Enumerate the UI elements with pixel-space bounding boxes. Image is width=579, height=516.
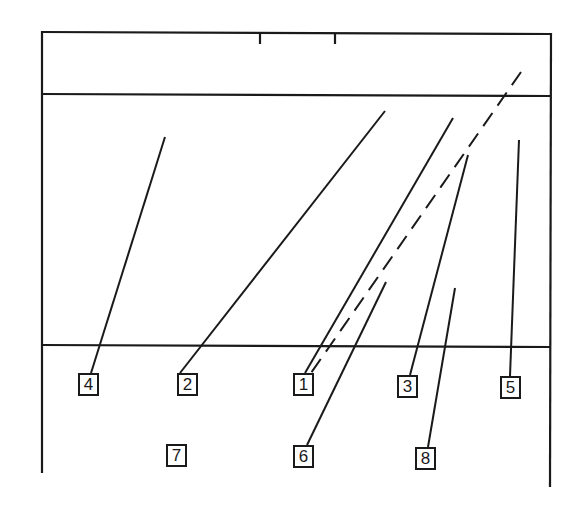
leader-line-8 xyxy=(428,288,455,447)
leader-line-4 xyxy=(91,137,165,373)
callout-label-8: 8 xyxy=(415,447,436,470)
leader-line-1 xyxy=(305,118,453,373)
leader-line-5 xyxy=(510,140,519,376)
lower-divider-line xyxy=(42,345,551,347)
callout-label-3: 3 xyxy=(397,375,418,398)
leader-line-6 xyxy=(307,282,386,445)
callout-label-4: 4 xyxy=(78,373,99,396)
upper-divider-line xyxy=(42,94,551,96)
callout-label-5: 5 xyxy=(500,376,521,399)
cross-section-diagram xyxy=(0,0,579,516)
leader-line-2 xyxy=(180,111,385,373)
leader-line-3 xyxy=(410,155,468,375)
callout-label-6: 6 xyxy=(293,445,314,468)
callout-label-7: 7 xyxy=(166,444,187,467)
callout-label-1: 1 xyxy=(293,373,314,396)
leader-line-1-dashed xyxy=(311,72,521,373)
frame-top-edge xyxy=(42,32,551,34)
callout-label-2: 2 xyxy=(177,373,198,396)
frame-right-edge xyxy=(550,33,551,487)
